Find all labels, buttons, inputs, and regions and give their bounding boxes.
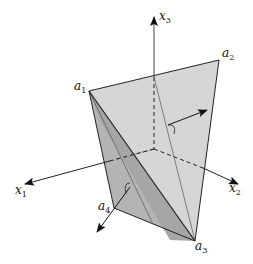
label-a4: a4 <box>98 199 110 215</box>
label-x3: x3 <box>159 9 171 25</box>
label-a1: a1 <box>74 79 86 95</box>
diagram-canvas: x3 x1 x2 a1 a2 a3 a4 <box>0 0 253 264</box>
label-x2: x2 <box>229 181 241 197</box>
label-a3: a3 <box>195 239 207 255</box>
label-x1: x1 <box>15 183 27 199</box>
label-a2: a2 <box>222 46 234 62</box>
